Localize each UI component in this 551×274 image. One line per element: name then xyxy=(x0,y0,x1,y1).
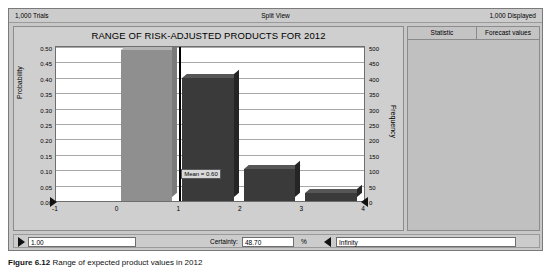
bar-front-face xyxy=(121,50,173,201)
forecast-values-column-header: Forecast values xyxy=(477,27,539,39)
displayed-count: 1,000 Displayed xyxy=(489,12,536,19)
spin-left-arrow-icon[interactable] xyxy=(324,237,331,247)
y-axis-label-frequency: Frequency xyxy=(390,105,397,138)
bar-front-face xyxy=(182,78,234,201)
axis-grabber-left-icon[interactable] xyxy=(50,197,57,207)
figure-caption: Figure 6.12 Range of expected product va… xyxy=(8,258,408,267)
y-axis-ticks-left: 0.500.450.400.350.300.250.200.150.100.05… xyxy=(30,43,54,203)
forecast-chart-window: 1,000 Trials Split View 1,000 Displayed … xyxy=(8,8,543,251)
y-axis-label-probability: Probability xyxy=(16,66,23,99)
axis-tick-label: 150 xyxy=(369,154,379,160)
statistics-header-row: Statistic Forecast values xyxy=(408,27,539,40)
axis-tick-label: 0.35 xyxy=(40,92,52,98)
axis-tick-label: 0.30 xyxy=(40,108,52,114)
bar-side-face xyxy=(234,70,239,197)
axis-tick-label: 0.15 xyxy=(40,154,52,160)
axis-tick-label: 450 xyxy=(369,61,379,67)
axis-tick-label: 0.10 xyxy=(40,169,52,175)
figure-caption-text: Range of expected product values in 2012 xyxy=(52,258,202,267)
bar-2 xyxy=(244,169,296,201)
upper-bound-input[interactable]: Infinity xyxy=(336,237,516,247)
bar-front-face xyxy=(244,169,296,201)
axis-tick-label: 100 xyxy=(369,169,379,175)
axis-tick-label: 0.20 xyxy=(40,138,52,144)
bar-0 xyxy=(121,50,173,201)
axis-tick-label: 250 xyxy=(369,123,379,129)
bar-side-face xyxy=(295,160,300,197)
axis-tick-label: 0.05 xyxy=(40,185,52,191)
y-axis-ticks-right: 500450400350300250200150100500 xyxy=(366,43,390,203)
x-axis-tick-label: 1 xyxy=(176,205,180,212)
axis-tick-label: 500 xyxy=(369,46,379,52)
percent-symbol: % xyxy=(301,238,307,245)
certainty-input[interactable]: 48.70 xyxy=(242,237,294,247)
range-control-bar: 1.00 Certainty: 48.70 % Infinity xyxy=(13,234,540,248)
chart-panel: RANGE OF RISK-ADJUSTED PRODUCTS FOR 2012… xyxy=(13,26,404,231)
x-axis-tick-label: 3 xyxy=(300,205,304,212)
x-axis-tick-label: 2 xyxy=(238,205,242,212)
statistic-column-header: Statistic xyxy=(408,27,477,39)
chart-title: RANGE OF RISK-ADJUSTED PRODUCTS FOR 2012 xyxy=(14,30,403,41)
gridline xyxy=(56,47,364,48)
bar-1 xyxy=(182,78,234,201)
view-mode-label: Split View xyxy=(9,12,542,19)
axis-tick-label: 50 xyxy=(369,185,376,191)
lower-bound-input[interactable]: 1.00 xyxy=(28,237,136,247)
gridline xyxy=(56,62,364,63)
x-axis-ticks: -101234 xyxy=(55,205,365,215)
axis-tick-label: 0.50 xyxy=(40,46,52,52)
bar-front-face xyxy=(305,193,357,201)
gridline xyxy=(56,201,364,202)
bar-side-face xyxy=(357,185,362,197)
axis-tick-label: 300 xyxy=(369,108,379,114)
axis-tick-label: 0 xyxy=(369,200,372,206)
axis-tick-label: 200 xyxy=(369,138,379,144)
axis-tick-label: 400 xyxy=(369,77,379,83)
mean-annotation: Mean = 0.60 xyxy=(181,169,221,179)
bar-3 xyxy=(305,193,357,201)
statistics-panel: Statistic Forecast values xyxy=(407,26,540,231)
axis-tick-label: 0.25 xyxy=(40,123,52,129)
x-axis-tick-label: 0 xyxy=(115,205,119,212)
axis-tick-label: 0.40 xyxy=(40,77,52,83)
figure-number: Figure 6.12 xyxy=(8,258,50,267)
top-status-bar: 1,000 Trials Split View 1,000 Displayed xyxy=(9,9,542,23)
plot-area: Mean = 0.60 xyxy=(55,46,365,202)
axis-grabber-right-icon[interactable] xyxy=(361,197,368,207)
axis-tick-label: 0.45 xyxy=(40,61,52,67)
axis-tick-label: 350 xyxy=(369,92,379,98)
bar-side-face xyxy=(172,46,177,197)
spin-right-arrow-icon[interactable] xyxy=(18,237,25,247)
certainty-label: Certainty: xyxy=(210,238,238,245)
